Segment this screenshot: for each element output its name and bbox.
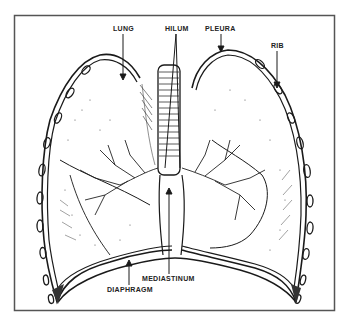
label-lung: LUNG — [113, 25, 134, 32]
label-pleura: PLEURA — [205, 25, 236, 32]
label-mediastinum: MEDIASTINUM — [142, 275, 195, 282]
label-rib: RIB — [271, 42, 284, 49]
lung-anatomy-diagram: LUNG HILUM PLEURA RIB MEDIASTINUM DIAPHR… — [0, 0, 344, 325]
label-diaphragm: DIAPHRAGM — [107, 286, 153, 293]
label-hilum: HILUM — [165, 25, 189, 32]
